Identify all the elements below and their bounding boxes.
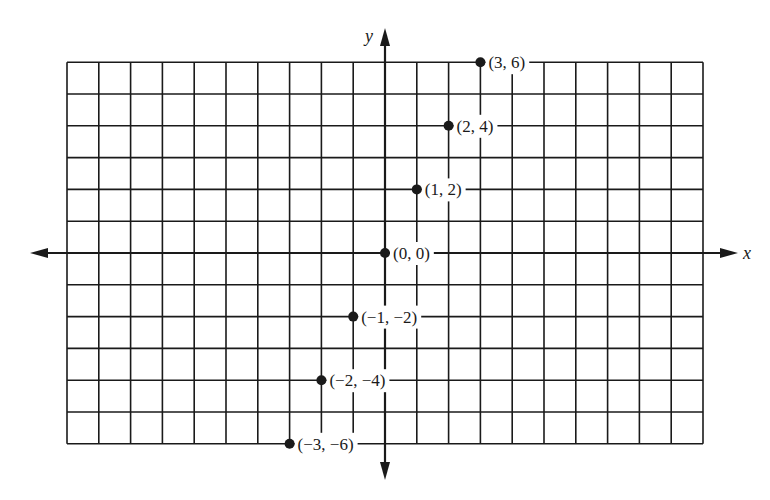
- x-axis-label: x: [742, 243, 751, 263]
- point-marker-icon: [380, 248, 390, 258]
- point-label: (−2, −4): [329, 371, 385, 390]
- point-label: (1, 2): [425, 180, 462, 199]
- x-axis-right-arrow-icon: [720, 248, 738, 258]
- point-marker-icon: [444, 121, 454, 131]
- data-point: (1, 2): [412, 178, 466, 201]
- point-marker-icon: [412, 184, 422, 194]
- data-point: (2, 4): [444, 115, 498, 138]
- data-point: (0, 0): [380, 242, 434, 265]
- coordinate-plane: x y (3, 6)(2, 4)(1, 2)(0, 0)(−1, −2)(−2,…: [0, 0, 770, 500]
- y-axis-label: y: [363, 26, 373, 46]
- point-label: (3, 6): [488, 53, 525, 72]
- point-label: (0, 0): [393, 244, 430, 263]
- point-label: (−1, −2): [361, 308, 417, 327]
- point-marker-icon: [475, 57, 485, 67]
- point-label: (−3, −6): [298, 435, 354, 454]
- point-marker-icon: [348, 312, 358, 322]
- data-point: (3, 6): [475, 51, 529, 74]
- y-axis-up-arrow-icon: [380, 28, 390, 46]
- data-point: (−1, −2): [348, 306, 421, 329]
- point-marker-icon: [285, 439, 295, 449]
- y-axis-down-arrow-icon: [380, 462, 390, 480]
- data-point: (−3, −6): [285, 433, 358, 456]
- x-axis-left-arrow-icon: [30, 248, 48, 258]
- point-label: (2, 4): [457, 117, 494, 136]
- data-point: (−2, −4): [316, 369, 389, 392]
- point-marker-icon: [316, 375, 326, 385]
